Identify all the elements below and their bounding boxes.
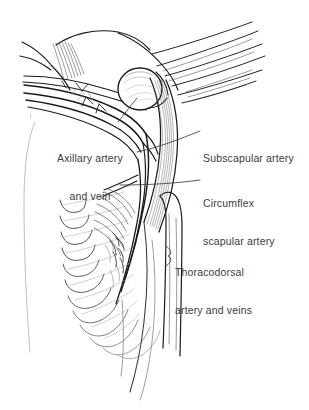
anatomical-illustration: Axillary artery and vein Subscapular art… [0, 0, 309, 410]
upper-arm-muscle-strands [152, 22, 265, 103]
label-thoracodorsal-line1: Thoracodorsal [175, 266, 303, 279]
label-circumflex-line1: Circumflex [203, 197, 303, 210]
label-subscapular-line1: Subscapular artery [203, 152, 309, 165]
label-thoracodorsal-artery-and-veins: Thoracodorsal artery and veins [175, 241, 303, 341]
neck-muscle-hatching [53, 42, 84, 80]
label-axillary-line1: Axillary artery [38, 152, 142, 165]
chest-wall-contour [24, 114, 35, 352]
label-axillary-line2: and vein [38, 190, 142, 203]
label-thoracodorsal-line2: artery and veins [175, 304, 303, 317]
upper-arm-muscle-strands-fine [163, 39, 254, 101]
label-axillary-artery-and-vein: Axillary artery and vein [38, 127, 142, 227]
leader-thoracodorsal-brace [166, 246, 171, 266]
